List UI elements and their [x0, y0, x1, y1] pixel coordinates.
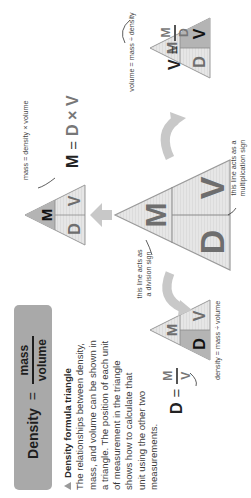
mass-formula-rhs: D × V — [64, 95, 82, 135]
mass-triangle: M D V — [25, 185, 85, 245]
density-formula-equals: = — [168, 389, 185, 398]
mass-formula-lhs: M — [64, 155, 82, 168]
density-den: V — [180, 369, 192, 383]
svg-text:V: V — [66, 195, 83, 206]
division-annotation: this line acts as a division sign — [136, 246, 153, 302]
svg-text:D: D — [193, 230, 231, 255]
volume-note: volume = mass ÷ density — [128, 2, 137, 102]
diagram-stage: Density = mass volume Density formula tr… — [0, 0, 251, 498]
volume-formula-equals: = — [166, 46, 183, 55]
mass-formula-equals: = — [65, 141, 82, 150]
svg-text:M: M — [163, 324, 180, 337]
main-triangle: M D V — [115, 160, 231, 270]
volume-formula-fraction: M D — [160, 25, 190, 41]
density-note: density = mass ÷ volume — [214, 280, 223, 380]
fraction-bar — [174, 25, 176, 41]
svg-text:V: V — [191, 310, 208, 321]
mass-note-arrow-icon — [38, 178, 55, 188]
mass-note: mass = density × volume — [22, 70, 31, 180]
svg-text:M: M — [38, 209, 55, 222]
division-annotation-line: a division sign — [145, 246, 154, 302]
svg-text:M: M — [139, 203, 172, 228]
svg-text:V: V — [191, 28, 208, 39]
triangles-graphic: M D V M D V M D V — [0, 0, 251, 498]
volume-den: D — [178, 25, 190, 40]
density-formula-lhs: D — [168, 402, 186, 414]
volume-num: M — [160, 25, 172, 41]
svg-text:D: D — [191, 338, 208, 350]
svg-text:D: D — [66, 223, 83, 235]
multiplication-annotation: this line acts as a multiplication sign — [230, 128, 247, 208]
svg-text:V: V — [193, 176, 231, 199]
density-num: M — [162, 368, 174, 384]
volume-formula-lhs: V — [166, 59, 184, 70]
svg-text:D: D — [191, 56, 208, 68]
fraction-bar — [176, 368, 178, 384]
density-formula-fraction: M V — [162, 368, 192, 384]
multiplication-annotation-line: multiplication sign — [239, 128, 248, 208]
arrow-up-icon — [90, 203, 112, 227]
mass-formula: M = D × V — [64, 95, 82, 168]
density-formula: D = M V — [162, 368, 192, 414]
volume-formula: V = M D — [160, 25, 190, 70]
